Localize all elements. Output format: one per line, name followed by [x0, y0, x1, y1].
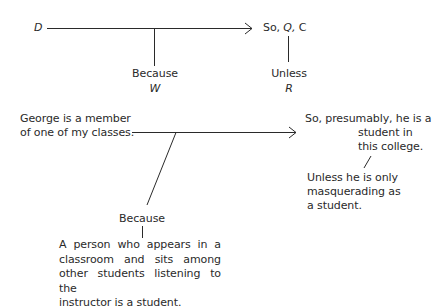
example-claim-line: this college. [358, 140, 423, 154]
schema-so: So, [263, 21, 280, 34]
example-warrant-connector: Because [112, 212, 172, 226]
example-data-line: of one of my classes. [20, 126, 134, 140]
example-warrant-line: A person who appears in a [59, 238, 221, 253]
example-rebuttal-line: masquerading as [307, 185, 401, 199]
schema-qualifier: Q, [283, 21, 295, 34]
example-rebuttal-connector-line [364, 156, 371, 168]
example-warrant-line: classroom and sits among [59, 253, 221, 268]
example-claim-line: student in [358, 126, 413, 140]
schema-rebuttal-connector: Unless [262, 67, 316, 81]
schema-rebuttal-label: R [262, 82, 316, 96]
example-rebuttal-line: Unless he is only [307, 171, 398, 185]
schema-claim-label: So, Q, C [263, 21, 306, 35]
example-claim-line: So, presumably, he is a [305, 112, 431, 126]
example-rebuttal-line: a student. [307, 199, 362, 213]
example-warrant-line: instructor is a student. [59, 296, 221, 306]
schema-warrant-label: W [124, 82, 186, 96]
example-warrant: A person who appears in a classroom and … [59, 238, 221, 306]
example-warrant-connector-line [147, 133, 176, 206]
schema-claim: C [299, 21, 307, 34]
example-warrant-line: other students listening to the [59, 267, 221, 296]
schema-warrant-connector: Because [124, 67, 186, 81]
example-data-line: George is a member [20, 112, 131, 126]
schema-data-label: D [34, 21, 42, 35]
